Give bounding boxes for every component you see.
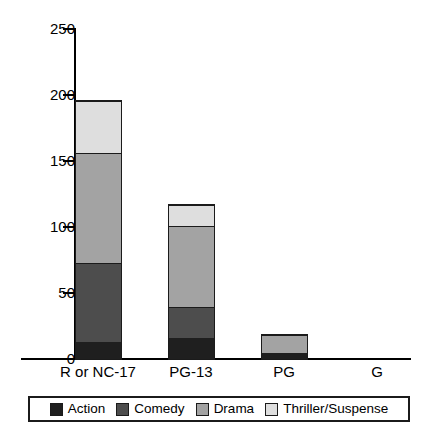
legend-item-comedy[interactable]: Comedy [116,402,184,416]
legend-label-drama: Drama [214,402,255,416]
legend-label-action: Action [68,402,106,416]
legend-item-action[interactable]: Action [50,402,106,416]
legend-item-thriller-suspense[interactable]: Thriller/Suspense [265,402,388,416]
legend-label-comedy: Comedy [134,402,184,416]
bar-segment-comedy [76,263,121,342]
legend-label-thriller-suspense: Thriller/Suspense [283,402,388,416]
bar-segment-action [76,342,121,359]
legend-swatch-action [50,403,63,416]
legend-swatch-thriller-suspense [265,403,278,416]
legend-swatch-drama [196,403,209,416]
bars-layer [0,0,437,360]
bar-pg[interactable] [261,334,308,360]
chart-legend: Action Comedy Drama Thriller/Suspense [28,396,410,422]
bar-segment-thriller-suspense [76,101,121,153]
bar-segment-action [262,353,307,359]
bar-segment-action [169,338,214,359]
bar-segment-thriller-suspense [169,205,214,226]
bar-r-or-nc-17[interactable] [75,100,122,360]
bar-segment-comedy [169,307,214,338]
bar-segment-drama [76,153,121,263]
bar-segment-drama [169,226,214,307]
legend-item-drama[interactable]: Drama [196,402,255,416]
stacked-bar-chart: 250 200 150 100 50 0 R or NC-17 PG-13 PG… [0,0,437,435]
x-tick-label-g: G [322,364,432,379]
legend-swatch-comedy [116,403,129,416]
bar-pg-13[interactable] [168,204,215,360]
bar-segment-drama [262,335,307,353]
